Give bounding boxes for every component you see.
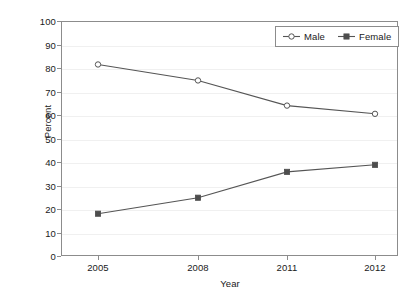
- data-point-marker-circle: [195, 78, 200, 83]
- data-point-marker-circle: [372, 111, 377, 116]
- filled-square-marker-icon: [338, 32, 355, 41]
- series-line: [98, 165, 375, 214]
- legend: MaleFemale: [275, 26, 399, 47]
- legend-item-female[interactable]: Female: [338, 31, 391, 42]
- series-line: [98, 64, 375, 113]
- legend-item-male[interactable]: Male: [283, 31, 325, 42]
- data-point-marker-circle: [95, 62, 100, 67]
- legend-label: Female: [359, 31, 391, 42]
- series-male: [95, 62, 377, 117]
- line-chart: Percent 1009080706050403020100 200520082…: [0, 0, 419, 304]
- data-point-marker-square: [95, 211, 100, 216]
- data-point-marker-square: [372, 162, 377, 167]
- open-circle-marker-icon: [283, 32, 300, 41]
- data-point-marker-square: [284, 169, 289, 174]
- data-point-marker-square: [195, 195, 200, 200]
- data-point-marker-circle: [284, 103, 289, 108]
- legend-label: Male: [304, 31, 325, 42]
- series-female: [95, 162, 377, 216]
